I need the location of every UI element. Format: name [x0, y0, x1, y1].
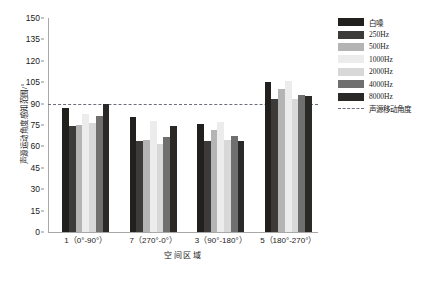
chart-figure: 声源运动角度感知范围/° 0153045607590105120135150 1…: [0, 0, 425, 281]
y-tick-mark: [41, 125, 44, 126]
x-tick-label: 3（90°-180°）: [195, 234, 247, 245]
bar[interactable]: [69, 126, 76, 232]
bar-group: [62, 18, 109, 232]
bar-group: [197, 18, 244, 232]
legend-item[interactable]: 1000Hz: [338, 53, 423, 65]
legend-dashed-line-swatch: [338, 108, 364, 109]
bar-group: [265, 18, 312, 232]
y-tick-label: 105: [26, 77, 40, 87]
legend-swatch: [338, 55, 364, 63]
legend-label: 250Hz: [369, 30, 389, 39]
legend-swatch: [338, 43, 364, 51]
bar[interactable]: [197, 124, 204, 232]
bar[interactable]: [89, 123, 96, 232]
bar[interactable]: [265, 82, 272, 232]
bar[interactable]: [96, 116, 103, 232]
y-tick-mark: [41, 103, 44, 104]
y-tick-mark: [41, 189, 44, 190]
legend-item[interactable]: 500Hz: [338, 41, 423, 53]
y-tick-label: 45: [31, 163, 40, 173]
bar[interactable]: [136, 141, 143, 232]
y-tick-label: 30: [31, 184, 40, 194]
bar[interactable]: [82, 114, 89, 232]
bar-groups: [48, 18, 318, 232]
legend-item[interactable]: 8000Hz: [338, 90, 423, 102]
x-axis-tick-labels: 1（0°-90°）7（270°-0°）3（90°-180°）5（180°-270…: [48, 234, 318, 250]
y-tick-mark: [41, 60, 44, 61]
legend-swatch: [338, 80, 364, 88]
x-axis-line: [48, 232, 318, 233]
bar[interactable]: [278, 89, 285, 232]
y-tick-mark: [41, 232, 44, 233]
legend-swatch: [338, 68, 364, 76]
plot-area: [48, 18, 318, 232]
legend: 白噪250Hz500Hz1000Hz2000Hz4000Hz8000Hz声源移动…: [338, 16, 423, 115]
bar[interactable]: [103, 104, 110, 232]
bar[interactable]: [130, 117, 137, 232]
bar[interactable]: [285, 81, 292, 232]
bar[interactable]: [271, 99, 278, 232]
bar[interactable]: [292, 99, 299, 232]
bar[interactable]: [231, 136, 238, 232]
bar[interactable]: [224, 140, 231, 232]
legend-swatch: [338, 93, 364, 101]
legend-item[interactable]: 白噪: [338, 16, 423, 28]
legend-label-reference-line: 声源移动角度: [369, 103, 411, 114]
y-tick-label: 0: [35, 227, 40, 237]
y-tick-label: 90: [31, 99, 40, 109]
y-tick-mark: [41, 82, 44, 83]
x-axis-title: 空间区域: [48, 249, 318, 260]
y-tick-label: 75: [31, 120, 40, 130]
y-axis-tick-labels: 0153045607590105120135150: [0, 18, 44, 232]
y-tick-mark: [41, 18, 44, 19]
bar[interactable]: [217, 122, 224, 232]
legend-label: 白噪: [369, 17, 383, 28]
legend-item-reference-line[interactable]: 声源移动角度: [338, 103, 423, 115]
bar[interactable]: [211, 130, 218, 232]
bar[interactable]: [204, 141, 211, 232]
bar[interactable]: [150, 121, 157, 232]
y-tick-label: 60: [31, 141, 40, 151]
y-tick-mark: [41, 39, 44, 40]
y-tick-label: 15: [31, 206, 40, 216]
bar[interactable]: [163, 137, 170, 232]
legend-label: 1000Hz: [369, 55, 393, 64]
y-tick-mark: [41, 210, 44, 211]
legend-label: 8000Hz: [369, 92, 393, 101]
legend-label: 4000Hz: [369, 80, 393, 89]
y-tick-label: 135: [26, 34, 40, 44]
y-tick-label: 120: [26, 56, 40, 66]
legend-item[interactable]: 250Hz: [338, 28, 423, 40]
bar[interactable]: [157, 144, 164, 232]
y-tick-mark: [41, 167, 44, 168]
y-tick-label: 150: [26, 13, 40, 23]
x-tick-label: 1（0°-90°）: [64, 234, 107, 245]
legend-label: 2000Hz: [369, 67, 393, 76]
bar[interactable]: [170, 126, 177, 232]
bar-group: [130, 18, 177, 232]
bar[interactable]: [62, 108, 69, 232]
bar[interactable]: [298, 95, 305, 232]
legend-item[interactable]: 2000Hz: [338, 66, 423, 78]
legend-swatch: [338, 18, 364, 26]
x-tick-label: 5（180°-270°）: [260, 234, 316, 245]
bar[interactable]: [238, 141, 245, 232]
bar[interactable]: [305, 96, 312, 232]
bar[interactable]: [76, 125, 83, 232]
x-tick-label: 7（270°-0°）: [130, 234, 177, 245]
bar[interactable]: [143, 140, 150, 232]
legend-swatch: [338, 31, 364, 39]
legend-label: 500Hz: [369, 42, 389, 51]
y-tick-mark: [41, 146, 44, 147]
legend-item[interactable]: 4000Hz: [338, 78, 423, 90]
